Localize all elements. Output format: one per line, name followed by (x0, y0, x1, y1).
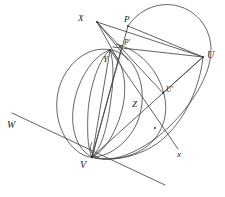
line-Pprime-U (113, 47, 203, 57)
point-label-V: V (80, 160, 86, 170)
line-P-U (128, 26, 203, 57)
pencil-from-V (92, 26, 203, 157)
line-label-x: x (177, 150, 181, 159)
conic-large-ellipse (91, 5, 212, 159)
figure-canvas (0, 0, 225, 197)
point-label-P-prime: P′ (124, 39, 130, 47)
conic-right-arc-outer (94, 57, 203, 159)
point-label-U-prime: U′ (166, 86, 173, 94)
line-W (12, 113, 165, 185)
line-label-W: W (7, 120, 15, 130)
point-label-U: U (207, 50, 214, 60)
point-label-X: X (78, 14, 84, 23)
point-label-Z: Z (132, 100, 137, 109)
geometry-figure: X P P′ Y U U′ Z V W x (0, 0, 225, 197)
point-label-Y: Y (103, 55, 108, 64)
point-label-P: P (124, 15, 130, 24)
line-x (110, 50, 178, 149)
